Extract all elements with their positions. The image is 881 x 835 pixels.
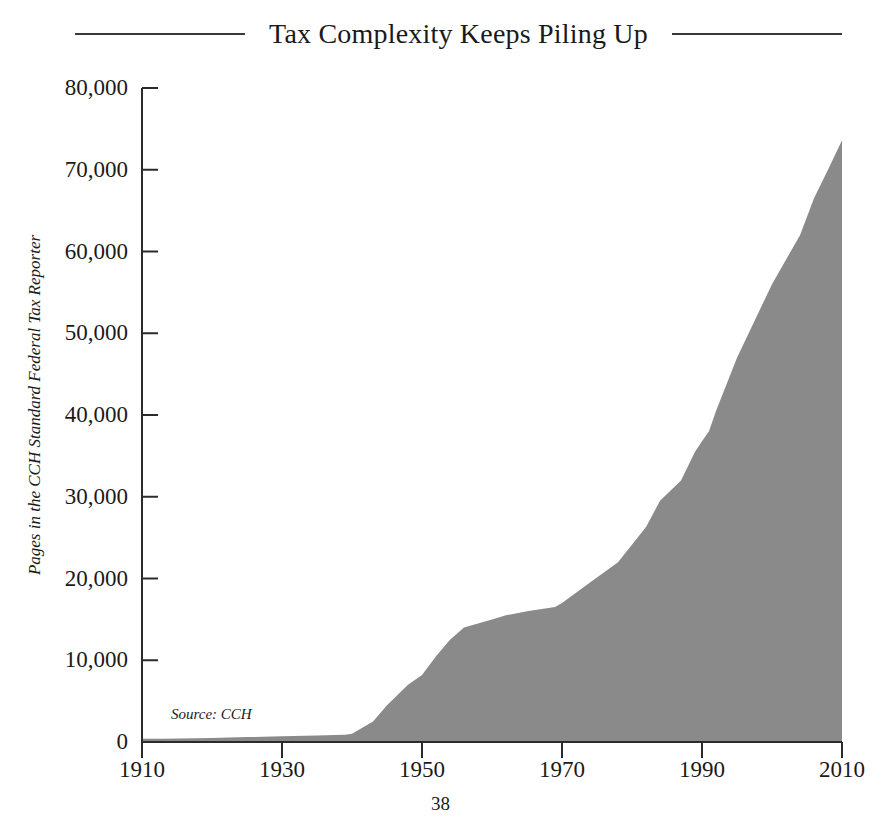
x-axis-tick-label: 1910: [119, 757, 165, 783]
x-axis-tick-label: 1970: [539, 757, 585, 783]
x-axis-tick-labels: 191019301950197019902010: [0, 0, 881, 835]
page-number: 38: [0, 793, 881, 815]
x-axis-tick-label: 2010: [819, 757, 865, 783]
x-axis-tick-label: 1950: [399, 757, 445, 783]
x-axis-tick-label: 1990: [679, 757, 725, 783]
y-axis-title: Pages in the CCH Standard Federal Tax Re…: [25, 205, 45, 605]
x-axis-tick-label: 1930: [259, 757, 305, 783]
source-note: Source: CCH: [171, 706, 252, 723]
chart-plot-area: 010,00020,00030,00040,00050,00060,00070,…: [0, 0, 881, 835]
